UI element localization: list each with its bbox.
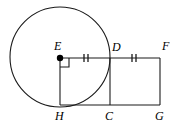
geometry-figure: E D F H C G xyxy=(0,0,179,124)
center-point-dot-E xyxy=(57,55,63,61)
vertex-label-G: G xyxy=(155,110,164,122)
vertex-label-E: E xyxy=(54,40,61,52)
figure-canvas xyxy=(0,0,179,124)
vertex-label-H: H xyxy=(55,110,64,122)
vertex-label-C: C xyxy=(105,110,113,122)
vertex-label-F: F xyxy=(162,40,169,52)
vertex-label-D: D xyxy=(112,41,121,53)
